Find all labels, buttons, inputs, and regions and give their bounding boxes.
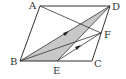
geometry-diagram: A D F B E C	[0, 0, 126, 79]
label-A: A	[28, 0, 37, 11]
label-D: D	[112, 1, 120, 12]
label-C: C	[94, 58, 102, 69]
label-F: F	[104, 29, 111, 40]
label-E: E	[53, 65, 60, 76]
label-B: B	[10, 56, 17, 67]
